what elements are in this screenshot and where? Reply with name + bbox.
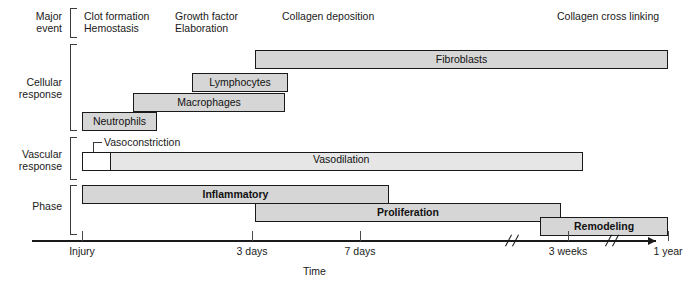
tick-1-year (668, 231, 669, 241)
tick-label-3-weeks: 3 weeks (518, 245, 618, 257)
major-event-clot-formation: Clot formation Hemostasis (84, 10, 149, 34)
bracket-vascular-response (70, 137, 77, 180)
segment-vasoconstriction (83, 153, 111, 170)
tick-label-1-year: 1 year (618, 245, 683, 257)
bar-label-neutrophils: Neutrophils (93, 115, 146, 127)
bar-label-remodeling: Remodeling (574, 220, 634, 232)
bracket-cellular-response (70, 44, 77, 131)
wound-healing-timeline-figure: Major event Clot formation Hemostasis Gr… (0, 0, 683, 290)
bar-label-proliferation: Proliferation (377, 206, 439, 218)
bar-lymphocytes: Lymphocytes (192, 73, 288, 92)
tick-label-3-days: 3 days (202, 245, 302, 257)
bar-inflammatory: Inflammatory (82, 185, 389, 204)
bar-label-lymphocytes: Lymphocytes (209, 76, 270, 88)
tick-3-days (252, 231, 253, 241)
bar-vasodilation: Vasodilation (82, 152, 583, 171)
bracket-phase (70, 185, 77, 235)
tick-injury (82, 231, 83, 241)
major-event-collagen-cross-linking: Collagen cross linking (557, 10, 659, 22)
tick-label-7-days: 7 days (310, 245, 410, 257)
bar-fibroblasts: Fibroblasts (255, 50, 668, 69)
bar-label-inflammatory: Inflammatory (203, 188, 269, 200)
row-label-major-event: Major event (4, 10, 62, 34)
major-event-collagen-deposition: Collagen deposition (282, 10, 374, 22)
row-label-cellular-response: Cellular response (4, 76, 62, 100)
row-label-phase: Phase (4, 200, 62, 212)
tick-3-weeks (568, 231, 569, 241)
bar-label-macrophages: Macrophages (177, 96, 241, 108)
tick-label-injury: Injury (32, 245, 132, 257)
vasoconstriction-callout-label: Vasoconstriction (104, 136, 180, 148)
bar-label-fibroblasts: Fibroblasts (436, 53, 487, 65)
bar-proliferation: Proliferation (255, 203, 561, 222)
major-event-growth-factor: Growth factor Elaboration (175, 10, 238, 34)
axis-title-time: Time (303, 265, 326, 277)
row-label-vascular-response: Vascular response (4, 148, 62, 172)
bar-remodeling: Remodeling (540, 217, 668, 236)
tick-7-days (360, 231, 361, 241)
bar-macrophages: Macrophages (133, 93, 285, 112)
bar-label-vasodilation: Vasodilation (313, 153, 369, 165)
bar-neutrophils: Neutrophils (82, 112, 157, 131)
axis-arrow-icon (648, 237, 656, 245)
bracket-major-event (70, 8, 77, 38)
time-axis-line (32, 240, 656, 242)
